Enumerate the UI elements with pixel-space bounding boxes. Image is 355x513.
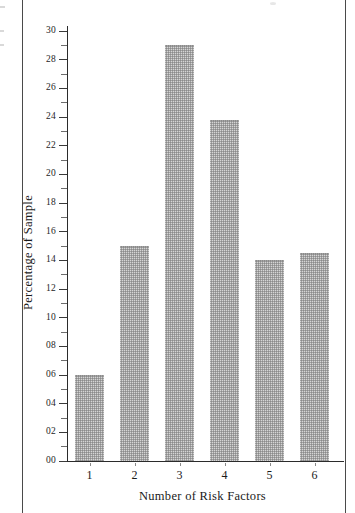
y-tick-mark [59,403,67,404]
y-tick-mark [59,117,67,118]
y-minor-tick-mark [61,274,67,275]
y-axis-line [67,26,68,462]
y-minor-tick-mark [61,418,67,419]
y-minor-tick-mark [61,389,67,390]
bar-chart-figure: 00020406081012141618202224262830 123456 … [0,0,355,513]
y-tick-mark [59,59,67,60]
y-tick-label: 04 [26,399,56,409]
bar-1 [75,375,104,461]
y-minor-tick-mark [61,217,67,218]
bar-3 [165,45,194,461]
y-minor-tick-mark [61,246,67,247]
y-minor-tick-mark [61,446,67,447]
x-tick-label: 5 [250,468,290,483]
y-tick-mark [59,260,67,261]
bar-6 [300,253,329,461]
y-tick-mark [59,461,67,462]
y-tick-label: 02 [26,427,56,437]
x-tick-mark [270,463,271,466]
bar-5 [255,260,284,461]
x-tick-mark [315,463,316,466]
y-minor-tick-mark [61,332,67,333]
x-tick-label: 2 [115,468,155,483]
y-tick-mark [59,31,67,32]
y-minor-tick-mark [61,160,67,161]
x-tick-mark [225,463,226,466]
y-tick-mark [59,231,67,232]
y-minor-tick-mark [61,74,67,75]
x-axis-line [61,461,344,462]
x-tick-mark [180,463,181,466]
bar-2 [120,246,149,461]
y-tick-mark [59,317,67,318]
y-tick-label: 28 [26,55,56,65]
x-tick-label: 4 [205,468,245,483]
y-tick-mark [59,174,67,175]
y-minor-tick-mark [61,45,67,46]
y-tick-label: 30 [26,26,56,36]
x-axis-title: Number of Risk Factors [61,489,344,504]
y-minor-tick-mark [61,360,67,361]
y-tick-label: 24 [26,112,56,122]
x-tick-label: 1 [70,468,110,483]
y-tick-label: 08 [26,341,56,351]
y-minor-tick-mark [61,188,67,189]
y-minor-tick-mark [61,131,67,132]
y-axis-title: Percentage of Sample [21,163,36,343]
y-tick-mark [59,145,67,146]
x-tick-mark [135,463,136,466]
x-tick-label: 6 [295,468,335,483]
y-minor-tick-mark [61,102,67,103]
x-tick-mark [90,463,91,466]
y-tick-mark [59,346,67,347]
y-tick-mark [59,289,67,290]
bar-4 [210,120,239,461]
y-tick-label: 06 [26,370,56,380]
y-tick-mark [59,203,67,204]
y-tick-mark [59,375,67,376]
y-tick-label: 00 [26,456,56,466]
y-tick-mark [59,88,67,89]
y-minor-tick-mark [61,303,67,304]
y-tick-label: 26 [26,83,56,93]
y-tick-mark [59,432,67,433]
x-tick-label: 3 [160,468,200,483]
y-tick-label: 22 [26,141,56,151]
